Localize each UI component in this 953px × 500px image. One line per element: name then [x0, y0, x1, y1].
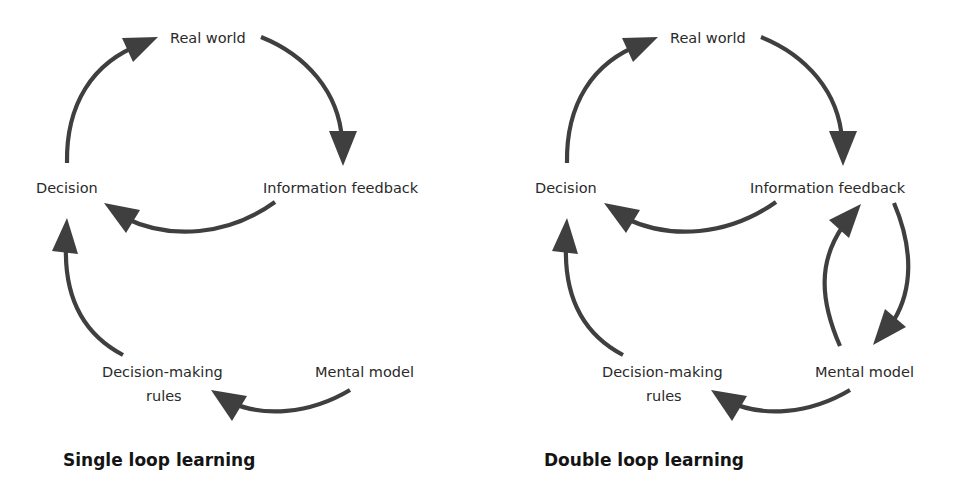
- node-information-feedback: Information feedback: [263, 180, 419, 196]
- arrow-decision-to-real-world: [567, 37, 658, 163]
- arrow-mental-model-to-rules: [211, 390, 350, 421]
- node-decision-making-rules-line2: rules: [646, 388, 682, 404]
- node-decision-making-rules-line1: Decision-making: [102, 364, 223, 380]
- node-decision: Decision: [535, 180, 597, 196]
- arrow-information-feedback-to-decision: [604, 202, 776, 233]
- node-mental-model: Mental model: [815, 364, 914, 380]
- caption-double-loop: Double loop learning: [544, 450, 744, 470]
- arrow-real-world-to-information-feedback: [261, 37, 357, 166]
- arrow-rules-to-decision: [52, 218, 123, 355]
- double-loop-diagram: Real world Decision Information feedback…: [535, 30, 914, 470]
- node-decision-making-rules-line1: Decision-making: [602, 364, 723, 380]
- node-information-feedback: Information feedback: [750, 180, 906, 196]
- arrow-real-world-to-information-feedback: [761, 37, 857, 166]
- caption-single-loop: Single loop learning: [63, 450, 255, 470]
- node-decision-making-rules-line2: rules: [146, 388, 182, 404]
- learning-loops-diagram: Real world Decision Information feedback…: [0, 0, 953, 500]
- node-mental-model: Mental model: [315, 364, 414, 380]
- arrow-decision-to-real-world: [67, 37, 158, 163]
- node-decision: Decision: [36, 180, 98, 196]
- arrow-information-feedback-to-decision: [104, 202, 275, 233]
- arrow-mental-model-to-rules: [711, 390, 850, 421]
- arrow-information-feedback-to-mental-model: [873, 203, 908, 345]
- node-real-world: Real world: [670, 30, 746, 46]
- node-real-world: Real world: [170, 30, 246, 46]
- single-loop-diagram: Real world Decision Information feedback…: [36, 30, 419, 470]
- arrow-mental-model-to-information-feedback: [825, 204, 861, 346]
- arrow-rules-to-decision: [552, 218, 623, 355]
